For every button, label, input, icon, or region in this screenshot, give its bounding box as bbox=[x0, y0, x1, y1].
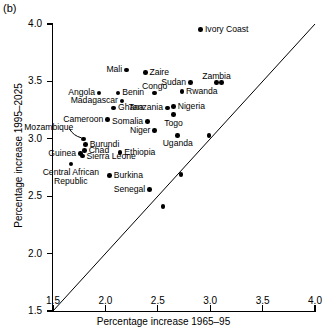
point-label: Ghana bbox=[118, 103, 144, 112]
data-point bbox=[107, 173, 112, 178]
data-point bbox=[143, 70, 148, 75]
y-tick-label: 3.0 bbox=[0, 134, 42, 144]
y-tick-label: 2.0 bbox=[0, 249, 42, 259]
data-point bbox=[111, 106, 116, 111]
point-label: Madagascar bbox=[71, 96, 118, 105]
scatter-plot-figure: (b) Percentage increase 1995–2025 Percen… bbox=[0, 0, 327, 333]
y-tick-label: 4.0 bbox=[0, 19, 42, 29]
point-label: Zambia bbox=[176, 72, 256, 81]
data-point bbox=[145, 119, 150, 124]
data-point bbox=[81, 137, 86, 142]
point-label: Niger bbox=[130, 126, 151, 135]
point-label: Ethiopia bbox=[124, 148, 155, 157]
data-point bbox=[124, 68, 129, 73]
plot-area: Ivory CoastMaliZaireZambiaSudanBeninAngo… bbox=[53, 24, 315, 311]
point-label: Senegal bbox=[114, 185, 146, 194]
data-point bbox=[175, 133, 180, 138]
point-label: Mali bbox=[106, 65, 122, 74]
data-point bbox=[152, 128, 157, 133]
data-point bbox=[198, 27, 203, 32]
data-point bbox=[80, 154, 85, 159]
data-point bbox=[165, 106, 170, 111]
data-point bbox=[214, 80, 219, 85]
data-point bbox=[219, 80, 224, 85]
point-label: Burkina bbox=[114, 171, 143, 180]
point-label: Nigeria bbox=[178, 102, 205, 111]
data-point bbox=[147, 187, 152, 192]
point-label: Zaire bbox=[149, 68, 169, 77]
point-label: Rwanda bbox=[186, 87, 218, 96]
panel-label: (b) bbox=[3, 2, 16, 14]
data-point bbox=[179, 172, 184, 177]
point-label: Guinea bbox=[48, 149, 76, 158]
x-axis-title: Percentage increase 1965–95 bbox=[0, 316, 327, 327]
point-label: Central African Republic bbox=[27, 168, 115, 186]
data-point bbox=[180, 89, 185, 94]
data-point bbox=[171, 104, 176, 109]
data-point bbox=[83, 142, 88, 147]
data-point bbox=[161, 204, 166, 209]
y-tick-label: 1.5 bbox=[0, 306, 42, 316]
y-tick-label: 3.5 bbox=[0, 76, 42, 86]
point-label: Ivory Coast bbox=[205, 25, 248, 34]
point-label: Mozambique bbox=[24, 123, 73, 132]
data-point bbox=[171, 112, 176, 117]
data-point bbox=[152, 91, 157, 96]
data-point bbox=[69, 162, 74, 167]
data-point bbox=[207, 133, 212, 138]
y-tick-label: 2.5 bbox=[0, 191, 42, 201]
data-point bbox=[105, 117, 110, 122]
